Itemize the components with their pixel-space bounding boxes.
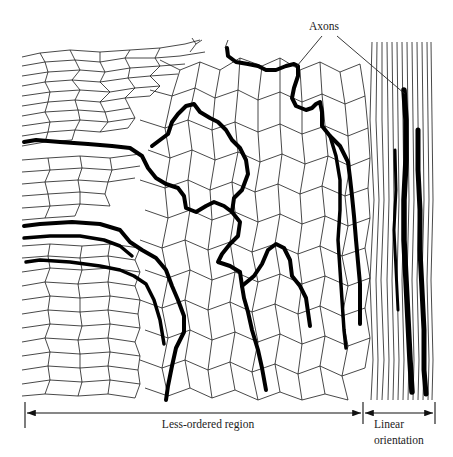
axons-label: Axons [309,20,340,32]
axon-center-loop [218,212,266,390]
neural-tissue-diagram: Axons Less-ordered region Linear orienta… [0,0,453,457]
axons-leader-line-left [297,36,322,66]
axon-linear-3 [394,150,398,310]
less-ordered-label: Less-ordered region [162,418,255,431]
region-scale-bars: Less-ordered region Linear orientation [25,402,435,446]
axon-right [330,136,346,348]
linear-orientation-label-line1: Linear [374,418,404,430]
axons-annotation: Axons [297,20,405,94]
linear-orientation-label-line2: orientation [374,434,424,446]
axon-left-lower [26,260,164,344]
